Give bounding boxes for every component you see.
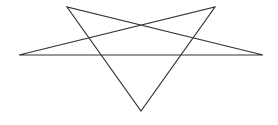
diagram-canvas [0, 0, 278, 125]
pentagram-star-icon [0, 0, 278, 125]
pentagram-outline [19, 7, 263, 111]
